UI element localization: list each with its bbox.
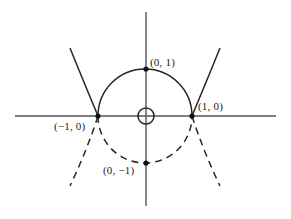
hyperbola-upper-left-branch: [70, 48, 98, 116]
plot-canvas: [0, 0, 291, 219]
right-point-marker: [189, 113, 194, 118]
hyperbola-lower-right-branch: [192, 116, 220, 186]
bottom-point-label: (0, −1): [103, 165, 134, 176]
top-point-label: (0, 1): [150, 57, 175, 68]
circle-upper-arc: [98, 69, 192, 116]
left-point-marker: [95, 113, 100, 118]
circle-lower-arc: [98, 116, 192, 163]
conic-intersection-figure: (0, 1) (1, 0) (−1, 0) (0, −1): [0, 0, 291, 219]
left-point-label: (−1, 0): [54, 121, 85, 132]
top-point-marker: [143, 66, 148, 71]
bottom-point-marker: [143, 160, 148, 165]
right-point-label: (1, 0): [198, 101, 223, 112]
